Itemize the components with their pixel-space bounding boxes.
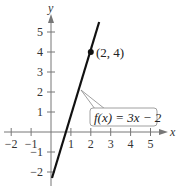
y-tick-label: −2 [30, 165, 43, 179]
function-graph: y x −2−112345 54321−1−2 (2, 4) f(x) = 3x… [0, 0, 180, 193]
y-tick-label: 5 [37, 25, 43, 39]
y-axis-label: y [47, 1, 54, 15]
function-callout-leader [81, 90, 105, 109]
x-axis-arrow-icon [159, 129, 168, 135]
graph-canvas: y x −2−112345 54321−1−2 (2, 4) f(x) = 3x… [0, 0, 180, 193]
x-tick-label: 4 [128, 137, 134, 151]
x-axis-ticks: −2−112345 [5, 128, 154, 151]
y-axis: y [47, 1, 54, 186]
point-marker [88, 49, 94, 55]
x-tick-label: 2 [88, 137, 94, 151]
x-axis-label: x [169, 125, 176, 139]
x-tick-label: 1 [68, 137, 74, 151]
function-label: f(x) = 3x − 2 [94, 110, 162, 125]
x-tick-label: 5 [148, 137, 154, 151]
y-tick-label: −1 [30, 145, 43, 159]
x-tick-label: −2 [5, 137, 18, 151]
function-line [52, 22, 99, 178]
y-tick-label: 4 [37, 45, 43, 59]
y-tick-label: 3 [37, 65, 43, 79]
point-label: (2, 4) [96, 45, 124, 60]
x-tick-label: 3 [108, 137, 114, 151]
y-tick-label: 1 [37, 105, 43, 119]
y-axis-arrow-icon [48, 14, 54, 23]
y-tick-label: 2 [37, 85, 43, 99]
